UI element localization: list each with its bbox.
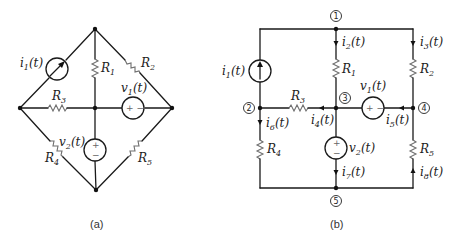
i3-arrow-icon [411, 41, 416, 46]
resistor-r2-b [410, 59, 416, 78]
i5-arrow-icon [399, 106, 404, 111]
resistor-r2-a [125, 60, 140, 73]
label-r5-a: R5 [137, 151, 152, 167]
label-i7-b: i7(t) [342, 165, 365, 181]
resistor-r1-b [333, 59, 339, 78]
svg-text:4: 4 [422, 104, 427, 113]
label-r4-b: R4 [266, 142, 281, 158]
svg-text:2: 2 [247, 104, 252, 113]
wire-left-r4-a [20, 108, 50, 141]
node-4-label: 4 [419, 103, 430, 114]
circuit-diagram-a: + − + − i1(t) R1 R2 R3 v1(t) v2(t) R4 R5… [18, 27, 174, 230]
v2-minus-sign-b: − [333, 148, 341, 158]
resistor-r4-b [257, 140, 263, 159]
v2-minus-sign-a: − [92, 150, 100, 160]
label-i2-b: i2(t) [342, 35, 365, 51]
label-i1-a: i1(t) [20, 56, 43, 72]
node-top-a [93, 27, 97, 31]
v2-plus-sign-a: + [92, 140, 100, 150]
node-3-label: 3 [340, 93, 351, 104]
node-4-dot [411, 106, 415, 110]
caption-a: (a) [90, 218, 103, 230]
label-r4-a: R4 [44, 151, 59, 167]
svg-text:1: 1 [334, 12, 339, 21]
label-v2-a: v2(t) [59, 135, 85, 151]
resistor-r5-b [410, 140, 416, 159]
i2-arrow-icon [334, 41, 339, 46]
i7-arrow-icon [334, 170, 339, 175]
label-i4-b: i4(t) [311, 113, 334, 129]
node-right-a [170, 106, 174, 110]
i8-arrow-icon [411, 168, 416, 173]
v1-signs-a: + − [126, 103, 144, 113]
svg-text:5: 5 [334, 197, 339, 206]
label-r3-b: R3 [290, 89, 305, 105]
label-r5-b: R5 [419, 142, 434, 158]
i4-arrow-icon [319, 106, 324, 111]
i6-arrow-icon [258, 120, 263, 125]
wire-top-left-a [66, 29, 95, 60]
label-i8-b: i8(t) [420, 165, 443, 181]
label-v2-b: v2(t) [349, 141, 375, 157]
label-i1-b: i1(t) [222, 64, 245, 80]
label-i3-b: i3(t) [420, 35, 443, 51]
resistor-r3-b [289, 105, 308, 111]
svg-text:3: 3 [343, 94, 348, 103]
resistor-r3-a [48, 105, 67, 111]
label-r2-b: R2 [419, 62, 434, 78]
label-r1-a: R1 [100, 61, 115, 77]
node-3-dot [334, 106, 338, 110]
node-2-label: 2 [244, 103, 255, 114]
label-r1-b: R1 [341, 62, 356, 78]
wire-right-r5-a [142, 108, 172, 141]
node-1-dot [334, 27, 338, 31]
label-v1-b: v1(t) [360, 79, 386, 95]
node-left-a [18, 106, 22, 110]
caption-b: (b) [330, 218, 343, 230]
node-center-a [93, 106, 97, 110]
node-5-dot [334, 186, 338, 190]
wire-r4-bottom-a [63, 157, 96, 190]
wire-top-right-a [95, 29, 125, 60]
circuit-diagram-b: + − + − 1 2 3 4 [222, 11, 443, 231]
wire-top-left-a2 [20, 78, 49, 108]
label-i6-b: i6(t) [266, 116, 289, 132]
label-r2-a: R2 [140, 56, 155, 72]
node-2-dot [258, 106, 262, 110]
v2-plus-sign-b: + [333, 138, 341, 148]
wire-v2-bottom-a [95, 161, 96, 190]
node-1-label: 1 [331, 11, 342, 22]
node-bottom-a [94, 188, 98, 192]
label-r3-a: R3 [51, 89, 66, 105]
node-5-label: 5 [331, 196, 342, 207]
wire-r5-bottom-a [96, 157, 128, 190]
label-i5-b: i5(t) [386, 113, 409, 129]
v1-signs-b: + − [366, 103, 384, 113]
resistor-r1-a [92, 59, 98, 78]
label-v1-a: v1(t) [121, 81, 147, 97]
